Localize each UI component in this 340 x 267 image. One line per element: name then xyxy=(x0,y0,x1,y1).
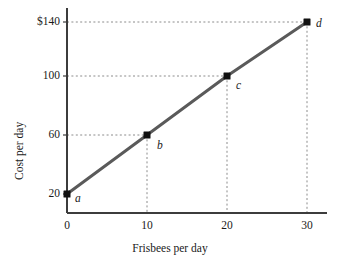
data-point-c xyxy=(224,73,231,80)
y-tick-label-140: $140 xyxy=(14,16,60,28)
point-label-d: d xyxy=(316,18,322,30)
data-point-d xyxy=(304,19,311,26)
x-tick-label-20: 20 xyxy=(213,220,241,232)
y-tick-label-20: 20 xyxy=(14,188,60,200)
cost-line-series xyxy=(67,22,307,194)
x-tick-label-10: 10 xyxy=(133,220,161,232)
chart-figure: $140 100 60 20 0 10 20 30 a b c d Frisbe… xyxy=(0,0,340,267)
data-point-a xyxy=(64,191,71,198)
x-tick-label-0: 0 xyxy=(53,220,81,232)
data-point-b xyxy=(144,132,151,139)
point-label-b: b xyxy=(157,140,163,152)
point-label-c: c xyxy=(236,80,241,92)
horizontal-guide-lines xyxy=(67,22,307,135)
y-axis-title: Cost per day xyxy=(14,60,26,180)
x-axis-title: Frisbees per day xyxy=(0,243,340,255)
x-tick-label-30: 30 xyxy=(293,220,321,232)
point-label-a: a xyxy=(75,193,81,205)
